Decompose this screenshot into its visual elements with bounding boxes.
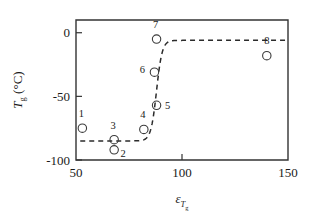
y-tick-label: -50	[53, 89, 70, 104]
y-tick-label: 0	[64, 25, 71, 40]
data-point-1: 1	[78, 108, 86, 132]
data-point-7: 7	[152, 19, 160, 43]
data-point-6: 6	[140, 64, 159, 76]
svg-text:εTg: εTg	[175, 191, 189, 211]
y-tick-label: -100	[46, 153, 70, 168]
x-tick-label: 100	[172, 165, 192, 180]
data-point-marker	[110, 135, 118, 143]
x-axis-title-subscript-g: g	[185, 204, 189, 211]
chart-figure: 12345678 0-50-100 50100150 Tg (°C) εTg	[0, 0, 317, 222]
x-axis-title: εTg	[175, 191, 189, 211]
data-point-label: 6	[140, 64, 145, 75]
y-axis-title: Tg (°C)	[10, 71, 27, 108]
data-point-label: 3	[111, 120, 116, 131]
x-tick-label: 50	[70, 165, 83, 180]
data-point-marker	[263, 51, 271, 59]
data-point-4: 4	[140, 109, 148, 133]
data-point-marker	[152, 101, 160, 109]
data-point-8: 8	[263, 35, 271, 60]
svg-text:Tg (°C): Tg (°C)	[10, 71, 27, 108]
data-point-label: 2	[121, 148, 126, 159]
data-point-label: 8	[264, 35, 269, 46]
data-point-label: 1	[79, 108, 84, 119]
x-tick-label: 150	[278, 165, 298, 180]
y-axis-title-unit: (°C)	[10, 71, 25, 97]
data-point-marker	[110, 146, 118, 154]
data-point-label: 7	[153, 19, 158, 30]
data-point-marker	[152, 35, 160, 43]
data-point-marker	[150, 68, 158, 76]
data-point-label: 5	[165, 100, 170, 111]
y-tick-labels: 0-50-100	[46, 25, 70, 167]
data-point-label: 4	[140, 109, 146, 120]
data-point-marker	[140, 125, 148, 133]
data-point-marker	[78, 124, 86, 132]
data-point-2: 2	[110, 146, 126, 159]
x-tick-labels: 50100150	[70, 165, 298, 180]
scatter-plot-svg: 12345678 0-50-100 50100150 Tg (°C) εTg	[0, 0, 317, 222]
